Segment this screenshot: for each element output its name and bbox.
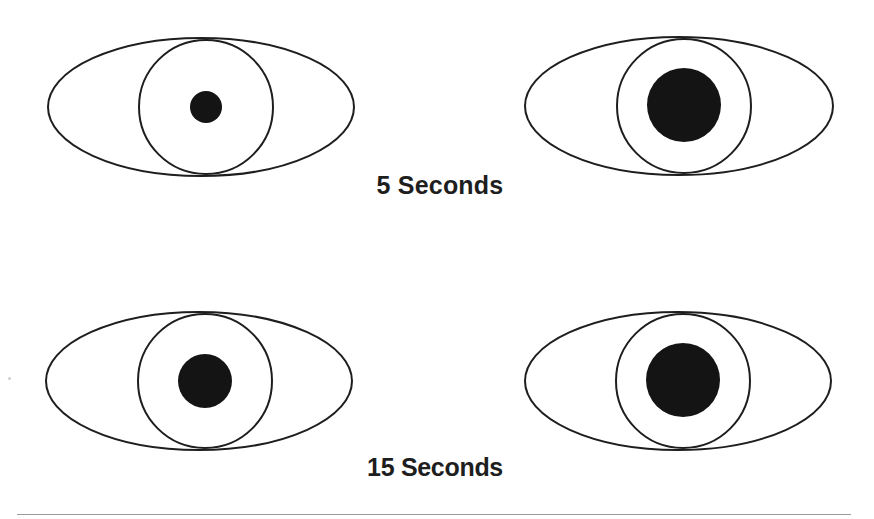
eye-15s-right: [525, 312, 831, 450]
scan-speck: [8, 377, 11, 380]
pupil-dilation-diagram: [0, 0, 874, 519]
pupil: [190, 91, 222, 123]
pupil: [646, 343, 720, 417]
caption-15-seconds: 15 Seconds: [367, 453, 503, 482]
eye-5s-right: [525, 37, 833, 175]
pupil: [178, 354, 232, 408]
bottom-rule-divider: [17, 514, 851, 515]
caption-5-seconds: 5 Seconds: [377, 171, 504, 200]
eye-5s-left: [48, 38, 354, 176]
eye-15s-left: [46, 312, 352, 450]
pupil: [647, 68, 721, 142]
